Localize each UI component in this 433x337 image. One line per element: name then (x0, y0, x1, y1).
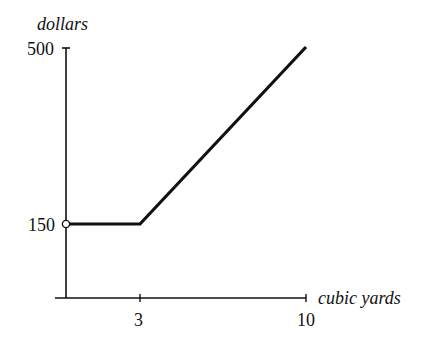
y-axis-label: dollars (37, 14, 88, 34)
x-tick-label-10: 10 (297, 310, 315, 330)
chart: dollars 500 150 3 10 cubic yards (0, 0, 433, 337)
x-tick-label-3: 3 (134, 310, 143, 330)
x-axis-label: cubic yards (318, 288, 401, 308)
cost-line (69, 47, 306, 224)
y-tick-label-150: 150 (28, 215, 55, 235)
open-circle-marker (62, 220, 69, 227)
y-tick-label-500: 500 (27, 39, 54, 59)
